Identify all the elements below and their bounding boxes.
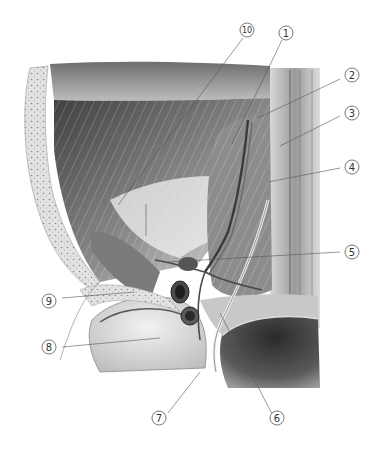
callout-6-text: 6 — [274, 413, 280, 424]
rectus-abdominis — [270, 68, 320, 328]
callout-5: 5 — [345, 245, 359, 259]
callout-10: 10 — [240, 23, 254, 37]
callout-4: 4 — [345, 160, 359, 174]
femoral-artery-lumen — [185, 311, 195, 321]
callout-7-text: 7 — [156, 413, 162, 424]
callout-1-text: 1 — [283, 28, 289, 39]
callout-3-text: 3 — [349, 108, 355, 119]
femoral-vein-lumen — [175, 285, 185, 299]
callout-10-text: 10 — [242, 26, 252, 35]
callout-8: 8 — [42, 340, 56, 354]
callout-1: 1 — [279, 26, 293, 40]
deep-inguinal-ring — [178, 257, 198, 271]
anatomical-illustration: 10 1 2 3 4 5 6 7 8 9 — [0, 0, 381, 453]
callout-2-text: 2 — [349, 70, 355, 81]
callout-7: 7 — [152, 411, 166, 425]
callout-8-text: 8 — [46, 342, 52, 353]
abdominal-wall-muscle — [50, 62, 272, 101]
callout-2: 2 — [345, 68, 359, 82]
callout-9-text: 9 — [46, 296, 52, 307]
leader-7 — [168, 372, 200, 413]
callout-5-text: 5 — [349, 247, 355, 258]
callout-4-text: 4 — [349, 162, 355, 173]
callout-9: 9 — [42, 294, 56, 308]
callout-6: 6 — [270, 411, 284, 425]
callout-3: 3 — [345, 106, 359, 120]
